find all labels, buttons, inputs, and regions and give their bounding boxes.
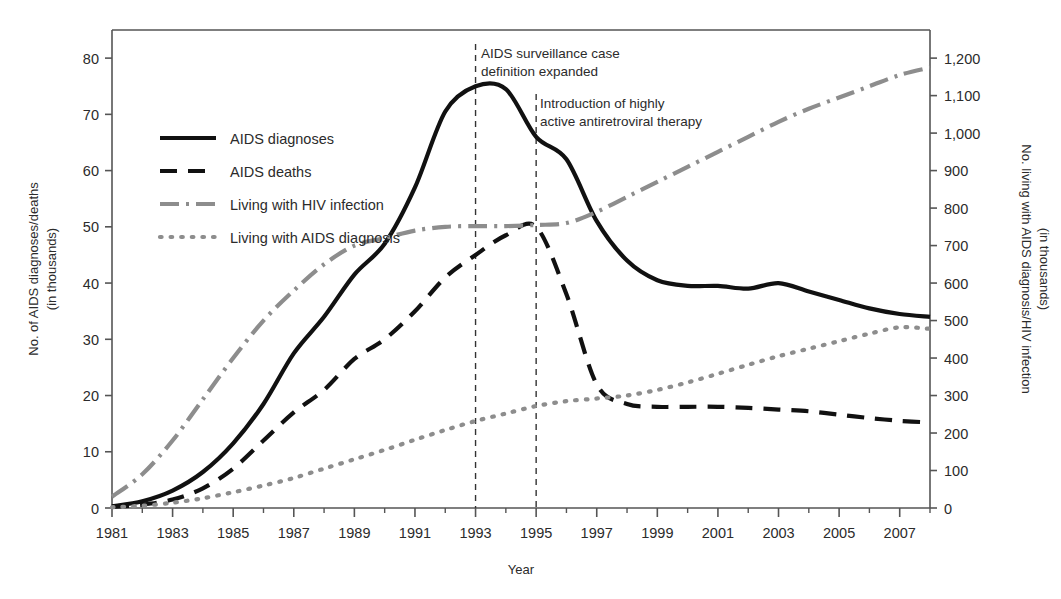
x-axis-tick-label: 1981: [96, 525, 128, 541]
y-axis-left-tick-label: 70: [83, 107, 99, 123]
y-axis-right-tick-label: 600: [944, 276, 968, 292]
y-axis-left-title-line2: (in thousands): [44, 228, 59, 310]
y-axis-left-tick-label: 20: [83, 388, 99, 404]
y-axis-left-tick-label: 30: [83, 332, 99, 348]
chart-background: [0, 0, 1061, 599]
x-axis-tick-label: 1991: [399, 525, 431, 541]
x-axis-tick-label: 2005: [823, 525, 855, 541]
y-axis-right-tick-label: 200: [944, 426, 968, 442]
y-axis-right-tick-label: 400: [944, 351, 968, 367]
annotation-case-definition-line2: definition expanded: [481, 64, 598, 79]
x-axis-tick-label: 1999: [641, 525, 673, 541]
y-axis-right-title-line1: No. living with AIDS diagnosis/HIV infec…: [1019, 144, 1034, 393]
y-axis-right-tick-label: 1,200: [944, 51, 980, 67]
y-axis-left-tick-label: 40: [83, 276, 99, 292]
x-axis-tick-label: 1997: [581, 525, 613, 541]
x-axis-tick-label: 2001: [702, 525, 734, 541]
y-axis-right-tick-label: 300: [944, 388, 968, 404]
x-axis-title: Year: [508, 562, 535, 577]
y-axis-left-tick-label: 10: [83, 444, 99, 460]
y-axis-right-tick-label: 800: [944, 201, 968, 217]
x-axis-tick-label: 1983: [156, 525, 188, 541]
y-axis-right-tick-label: 0: [944, 501, 952, 517]
annotation-haart-line1: Introduction of highly: [540, 96, 665, 111]
legend-label: Living with HIV infection: [230, 197, 384, 213]
y-axis-right-tick-label: 100: [944, 463, 968, 479]
x-axis-tick-label: 2003: [762, 525, 794, 541]
x-axis-tick-label: 1989: [338, 525, 370, 541]
x-axis-tick-label: 1995: [520, 525, 552, 541]
y-axis-right-title-line2: (in thousands): [1037, 228, 1052, 310]
annotation-haart-line2: active antiretroviral therapy: [540, 114, 702, 129]
annotation-case-definition-line1: AIDS surveillance case: [481, 46, 620, 61]
x-axis-tick-label: 1987: [278, 525, 310, 541]
legend-label: AIDS diagnoses: [230, 131, 334, 147]
legend-label: AIDS deaths: [230, 164, 311, 180]
x-axis-tick-label: 1993: [459, 525, 491, 541]
chart-figure: 01020304050607080 0100200300400500600700…: [0, 0, 1061, 599]
y-axis-left-title-line1: No. of AIDS diagnoses/deaths: [26, 182, 41, 356]
y-axis-left-tick-label: 0: [91, 501, 99, 517]
y-axis-right-tick-label: 900: [944, 163, 968, 179]
aids-surveillance-line-chart: 01020304050607080 0100200300400500600700…: [0, 0, 1061, 599]
y-axis-right-tick-label: 700: [944, 238, 968, 254]
x-axis-tick-label: 1985: [217, 525, 249, 541]
y-axis-right-tick-label: 500: [944, 313, 968, 329]
y-axis-right-tick-label: 1,100: [944, 88, 980, 104]
y-axis-left-tick-label: 60: [83, 163, 99, 179]
y-axis-left-tick-label: 50: [83, 219, 99, 235]
legend-label: Living with AIDS diagnosis: [230, 230, 400, 246]
x-axis-tick-label: 2007: [884, 525, 916, 541]
y-axis-right-tick-label: 1,000: [944, 126, 980, 142]
y-axis-left-tick-label: 80: [83, 51, 99, 67]
